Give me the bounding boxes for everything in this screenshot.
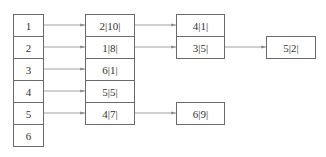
head-node-label: 5 bbox=[26, 108, 32, 120]
head-node-label: 1 bbox=[26, 20, 32, 32]
edge-node: 2|10| bbox=[85, 14, 135, 37]
head-node-label: 4 bbox=[26, 86, 32, 98]
head-node-2: 2 bbox=[13, 36, 44, 59]
head-node-4: 4 bbox=[13, 80, 44, 103]
edge-node-label: 4|1| bbox=[193, 20, 208, 32]
edge-node: 1|8| bbox=[85, 36, 135, 59]
head-node-5: 5 bbox=[13, 102, 44, 125]
edge-node: 3|5| bbox=[176, 36, 225, 59]
head-node-3: 3 bbox=[13, 58, 44, 81]
edge-node-label: 6|1| bbox=[102, 64, 117, 76]
edge-node-label: 5|2| bbox=[283, 42, 298, 54]
head-node-label: 6 bbox=[26, 130, 32, 142]
head-node-6: 6 bbox=[13, 124, 44, 147]
edge-node: 5|2| bbox=[266, 36, 316, 59]
edge-node: 4|1| bbox=[176, 14, 225, 37]
arrows-layer bbox=[0, 0, 326, 157]
edge-node: 5|5| bbox=[85, 80, 135, 103]
edge-node-label: 5|5| bbox=[102, 86, 117, 98]
head-node-label: 3 bbox=[26, 64, 32, 76]
edge-node-label: 6|9| bbox=[193, 108, 208, 120]
head-node-label: 2 bbox=[26, 42, 32, 54]
edge-node: 6|9| bbox=[176, 102, 225, 125]
edge-node-label: 4|7| bbox=[102, 108, 117, 120]
edge-node-label: 2|10| bbox=[100, 20, 121, 32]
edge-node-label: 1|8| bbox=[102, 42, 117, 54]
edge-node: 4|7| bbox=[85, 102, 135, 125]
head-node-1: 1 bbox=[13, 14, 44, 37]
edge-node: 6|1| bbox=[85, 58, 135, 81]
edge-node-label: 3|5| bbox=[193, 42, 208, 54]
